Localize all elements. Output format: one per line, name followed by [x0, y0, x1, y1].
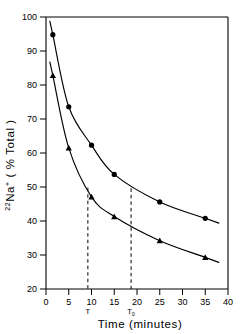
- curve-upper: [50, 21, 220, 224]
- data-point-circle: [203, 216, 208, 221]
- y-tick-label-90: 90: [27, 46, 37, 56]
- x-tick-label-40: 40: [223, 297, 233, 307]
- y-axis-ticks: [40, 17, 46, 289]
- y-tick-label-70: 70: [27, 114, 37, 124]
- x-tick-label-10: 10: [86, 297, 96, 307]
- x-tick-label-25: 25: [155, 297, 165, 307]
- x-axis-ticks: [46, 289, 228, 295]
- annotation-label-tau-zero: T0: [127, 307, 135, 317]
- y-tick-label-80: 80: [27, 80, 37, 90]
- y-axis-title-element: Na: [4, 186, 16, 202]
- x-tick-label-0: 0: [43, 297, 48, 307]
- data-point-circle: [66, 104, 71, 109]
- data-points-upper: [50, 32, 208, 221]
- data-point-circle: [89, 143, 94, 148]
- y-tick-label-20: 20: [27, 284, 37, 294]
- annotation-label-tau: T: [86, 307, 91, 316]
- y-axis-title-units-text: ( % Total ): [4, 119, 16, 177]
- y-tick-label-50: 50: [27, 182, 37, 192]
- data-point-circle: [50, 32, 55, 37]
- y-axis-title-group: 22Na+ ( % Total ): [4, 119, 16, 211]
- y-tick-label-100: 100: [22, 12, 37, 22]
- data-point-circle: [157, 199, 162, 204]
- y-tick-label-60: 60: [27, 148, 37, 158]
- annotation-labels: T T0: [86, 307, 135, 317]
- chart-figure: 100 90 80 70 60 50 40 30 20 0 5 10: [0, 0, 243, 334]
- data-point-circle: [112, 172, 117, 177]
- y-tick-label-30: 30: [27, 250, 37, 260]
- y-tick-label-40: 40: [27, 216, 37, 226]
- y-axis-title-superscript: 22: [4, 202, 11, 211]
- annotation-tau-zero-subscript: 0: [132, 311, 135, 317]
- x-tick-label-15: 15: [109, 297, 119, 307]
- chart-canvas: 100 90 80 70 60 50 40 30 20 0 5 10: [0, 0, 243, 334]
- data-point-triangle: [111, 213, 117, 219]
- data-points-lower: [50, 72, 209, 260]
- x-tick-label-20: 20: [132, 297, 142, 307]
- y-axis-tick-labels: 100 90 80 70 60 50 40 30 20: [22, 12, 37, 294]
- plot-axes: [46, 17, 228, 289]
- curve-paths: [50, 21, 220, 263]
- x-tick-label-30: 30: [177, 297, 187, 307]
- y-axis-title: 22Na+ ( % Total ): [4, 119, 16, 211]
- data-point-triangle: [66, 145, 72, 151]
- annotation-lines: [88, 188, 131, 289]
- data-point-triangle: [88, 194, 94, 200]
- x-tick-label-35: 35: [200, 297, 210, 307]
- x-axis-tick-labels: 0 5 10 15 20 25 30 35 40: [43, 297, 233, 307]
- x-tick-label-5: 5: [66, 297, 71, 307]
- data-point-triangle: [157, 238, 163, 244]
- x-axis-title: Time (minutes): [98, 318, 183, 330]
- curve-lower: [50, 62, 220, 263]
- data-point-triangle: [50, 72, 56, 78]
